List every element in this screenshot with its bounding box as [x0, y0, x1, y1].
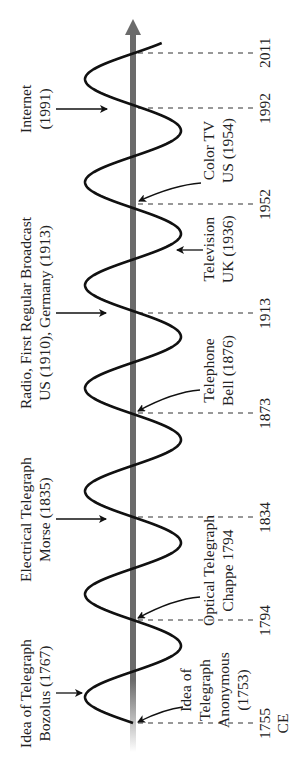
event-label-left: Electrical TelegraphMorse (1835) — [16, 457, 54, 582]
year-label: 1992 — [256, 93, 274, 124]
event-label-left-line: Radio, First Regular Broadcast — [16, 217, 35, 409]
year-value: 1794 — [256, 605, 274, 636]
event-label-right: TelevisionUK (1936) — [199, 215, 237, 283]
event-label-left-line: Internet — [16, 85, 35, 133]
year-value: 2011 — [256, 38, 274, 68]
event-label-right-line: Color TV — [199, 117, 218, 182]
event-label-left-line: Electrical Telegraph — [16, 457, 35, 582]
year-label: 1834 — [256, 502, 274, 533]
year-value: 1992 — [256, 93, 274, 124]
event-label-right-line: Bell (1876) — [218, 334, 237, 405]
year-label: 1913 — [256, 298, 274, 329]
era-label: CE — [274, 708, 292, 739]
event-label-right-line: UK (1936) — [218, 215, 237, 283]
event-label-left-line: Idea of Telegraph — [16, 639, 35, 748]
event-label-right: TelephoneBell (1876) — [199, 334, 237, 405]
year-label: 1755CE — [256, 708, 292, 739]
event-label-right-line: Telephone — [199, 334, 218, 405]
event-label-right-line: (1753) — [233, 652, 252, 728]
event-label-right-line: Television — [199, 215, 218, 283]
axis-shaft — [130, 32, 136, 752]
year-value: 1873 — [256, 398, 274, 429]
event-label-left-line: Bozolus (1767) — [35, 639, 54, 748]
year-label: 1952 — [256, 189, 274, 220]
event-label-left-line: Morse (1835) — [35, 457, 54, 582]
event-label-right-line: Chappe 1794 — [218, 515, 237, 626]
arrow-icon — [138, 390, 200, 411]
event-label-left-line: US (1910), Germany (1913) — [35, 217, 54, 409]
event-label-left-line: (1991) — [35, 85, 54, 133]
event-label-right-line: Optical Telegraph — [199, 515, 218, 626]
arrow-icon — [138, 597, 200, 618]
year-dashed-lines — [138, 53, 256, 723]
axis-arrowhead-icon — [125, 19, 141, 35]
time-axis — [125, 19, 141, 752]
year-value: 1913 — [256, 298, 274, 329]
year-value: 1755 — [256, 708, 274, 739]
event-label-right-line: Anonymous — [214, 652, 233, 728]
event-label-left: Idea of TelegraphBozolus (1767) — [16, 639, 54, 748]
event-label-right-line: Idea of — [176, 652, 195, 728]
event-label-right: Optical TelegraphChappe 1794 — [199, 515, 237, 626]
event-label-right: Color TVUS (1954) — [199, 117, 237, 182]
year-label: 1794 — [256, 605, 274, 636]
arrow-icon — [139, 183, 201, 201]
year-value: 1834 — [256, 502, 274, 533]
event-label-right-line: US (1954) — [218, 117, 237, 182]
year-value: 1952 — [256, 189, 274, 220]
event-arrows — [56, 109, 203, 722]
event-label-right-line: Telegraph — [195, 652, 214, 728]
event-label-right: Idea ofTelegraphAnonymous(1753) — [176, 652, 252, 728]
year-label: 1873 — [256, 398, 274, 429]
event-label-left: Radio, First Regular BroadcastUS (1910),… — [16, 217, 54, 409]
year-label: 2011 — [256, 38, 274, 68]
event-label-left: Internet(1991) — [16, 85, 54, 133]
